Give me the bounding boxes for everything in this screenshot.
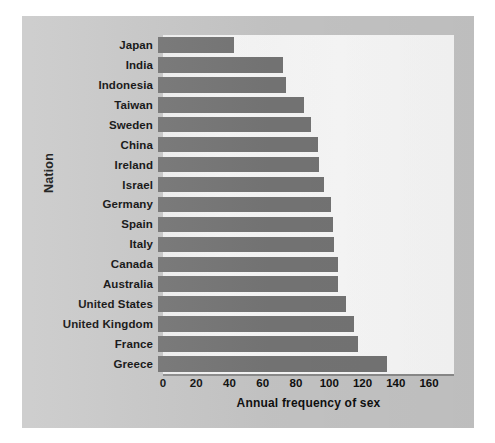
bar-row: China bbox=[22, 135, 474, 155]
bar-track bbox=[158, 115, 474, 135]
bar-row-label: Germany bbox=[22, 198, 158, 210]
x-tick-label: 0 bbox=[160, 377, 166, 389]
bar bbox=[158, 137, 318, 153]
bar bbox=[158, 157, 319, 173]
bar-track bbox=[158, 95, 474, 115]
bar bbox=[158, 197, 331, 213]
bar-row: Australia bbox=[22, 274, 474, 294]
bar-track bbox=[158, 195, 474, 215]
bar-row-label: Israel bbox=[22, 179, 158, 191]
bar bbox=[158, 37, 234, 53]
bar-row: France bbox=[22, 334, 474, 354]
bar-row: United Kingdom bbox=[22, 314, 474, 334]
bar-row-label: China bbox=[22, 139, 158, 151]
bar-track bbox=[158, 75, 474, 95]
bar-track bbox=[158, 55, 474, 75]
bar-track bbox=[158, 135, 474, 155]
x-axis-line bbox=[163, 374, 454, 376]
bar-row: United States bbox=[22, 294, 474, 314]
bar-row: Germany bbox=[22, 195, 474, 215]
figure-mount: Nation JapanIndiaIndonesiaTaiwanSwedenCh… bbox=[22, 16, 474, 428]
bar bbox=[158, 356, 387, 372]
bar-rows: JapanIndiaIndonesiaTaiwanSwedenChinaIrel… bbox=[22, 35, 474, 374]
bar bbox=[158, 57, 283, 73]
bar-row-label: Taiwan bbox=[22, 99, 158, 111]
bar-row: Spain bbox=[22, 214, 474, 234]
bar-track bbox=[158, 175, 474, 195]
x-tick-label: 160 bbox=[419, 377, 438, 389]
bar-row: India bbox=[22, 55, 474, 75]
bar bbox=[158, 77, 286, 93]
bar-row-label: Indonesia bbox=[22, 79, 158, 91]
bar bbox=[158, 237, 334, 253]
bar-row-label: India bbox=[22, 59, 158, 71]
bar bbox=[158, 316, 354, 332]
bar bbox=[158, 296, 346, 312]
x-tick-label: 20 bbox=[190, 377, 203, 389]
bar-row-label: United States bbox=[22, 298, 158, 310]
bar-row-label: Spain bbox=[22, 218, 158, 230]
bar bbox=[158, 177, 324, 193]
x-tick-label: 40 bbox=[223, 377, 236, 389]
bar bbox=[158, 217, 333, 233]
bar-track bbox=[158, 314, 474, 334]
bar-track bbox=[158, 274, 474, 294]
bar-row-label: Sweden bbox=[22, 119, 158, 131]
bar-track bbox=[158, 294, 474, 314]
bar-row-label: United Kingdom bbox=[22, 318, 158, 330]
bar-row-label: Canada bbox=[22, 258, 158, 270]
bar-row: Israel bbox=[22, 175, 474, 195]
bar-track bbox=[158, 234, 474, 254]
bar bbox=[158, 336, 358, 352]
bar-row-label: Greece bbox=[22, 358, 158, 370]
bar-row: Sweden bbox=[22, 115, 474, 135]
bar-track bbox=[158, 354, 474, 374]
bar-row: Greece bbox=[22, 354, 474, 374]
bar-row: Japan bbox=[22, 35, 474, 55]
bar-row-label: France bbox=[22, 338, 158, 350]
bar-row-label: Italy bbox=[22, 238, 158, 250]
bar-row: Ireland bbox=[22, 155, 474, 175]
bar-row-label: Australia bbox=[22, 278, 158, 290]
bar-track bbox=[158, 334, 474, 354]
bar-row: Taiwan bbox=[22, 95, 474, 115]
bar-row: Indonesia bbox=[22, 75, 474, 95]
bar-row-label: Japan bbox=[22, 39, 158, 51]
x-tick-label: 80 bbox=[290, 377, 303, 389]
bar-track bbox=[158, 155, 474, 175]
bar-row: Canada bbox=[22, 254, 474, 274]
bar-row: Italy bbox=[22, 234, 474, 254]
bar bbox=[158, 257, 338, 273]
bar-track bbox=[158, 214, 474, 234]
x-axis-title: Annual frequency of sex bbox=[163, 396, 454, 410]
bar bbox=[158, 97, 304, 113]
x-tick-label: 120 bbox=[353, 377, 372, 389]
bar-track bbox=[158, 35, 474, 55]
bar bbox=[158, 117, 311, 133]
bar-row-label: Ireland bbox=[22, 159, 158, 171]
x-tick-label: 140 bbox=[386, 377, 405, 389]
x-tick-label: 60 bbox=[256, 377, 269, 389]
x-axis-tick-labels: 020406080100120140160 bbox=[163, 377, 454, 393]
bar bbox=[158, 276, 338, 292]
x-tick-label: 100 bbox=[320, 377, 339, 389]
bar-track bbox=[158, 254, 474, 274]
